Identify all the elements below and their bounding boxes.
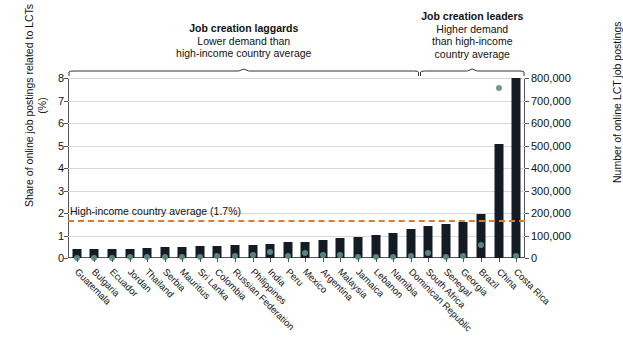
annotation-laggards-line-1: Lower demand than (144, 35, 344, 48)
y-axis-left-tick-label: 5 (34, 141, 64, 152)
bar-group[interactable]: Jamaica (349, 78, 367, 258)
x-axis-tickmark (463, 258, 464, 262)
bar-group[interactable]: Brazil (472, 78, 490, 258)
bar-group[interactable]: Senegal (437, 78, 455, 258)
y-axis-right-tick-label: 600,000 (531, 118, 601, 129)
y-axis-right-tick-label: 200,000 (531, 208, 601, 219)
y-axis-left-tick-label: 0 (34, 253, 64, 264)
y-axis-left-tick-label: 6 (34, 118, 64, 129)
x-axis-tickmark (182, 258, 183, 262)
x-axis-tick-label: Costa Rica (512, 267, 552, 307)
bar-group[interactable]: Serbia (156, 78, 174, 258)
bar-group[interactable]: Namibia (384, 78, 402, 258)
plot-area: 012345678 0100,000200,000300,000400,0005… (68, 78, 525, 258)
y-axis-right-tickmark (525, 236, 529, 237)
x-axis-tickmark (358, 258, 359, 262)
y-axis-left-tick-label: 4 (34, 163, 64, 174)
annotation-laggards-line-2: high-income country average (144, 47, 344, 60)
data-point-marker[interactable] (496, 85, 502, 91)
bar-group[interactable]: Argentina (314, 78, 332, 258)
bar-group[interactable]: Sri Lanka (191, 78, 209, 258)
bar-group[interactable]: Bulgaria (86, 78, 104, 258)
bar-group[interactable]: Costa Rica (507, 78, 525, 258)
bar-group[interactable]: Guatemala (68, 78, 86, 258)
x-axis-tickmark (499, 258, 500, 262)
bar-group[interactable]: Philippines (244, 78, 262, 258)
y-axis-left-tick-label: 2 (34, 208, 64, 219)
annotation-leaders-line-2: than high-income (412, 35, 532, 48)
y-axis-left-tick-label: 7 (34, 96, 64, 107)
x-axis-tickmark (516, 258, 517, 262)
bars-layer: GuatemalaBulgariaEcuadorJordanThailandSe… (68, 78, 525, 258)
x-axis-tickmark (200, 258, 201, 262)
bar-group[interactable]: Colombia (209, 78, 227, 258)
reference-line-label: High-income country average (1.7%) (70, 205, 241, 217)
x-axis-tickmark (411, 258, 412, 262)
y-axis-right-title: Number of online LCT job postings (611, 0, 623, 207)
y-axis-left-tick-label: 3 (34, 186, 64, 197)
bracket-leaders (421, 69, 524, 76)
bar-group[interactable]: Ecuador (103, 78, 121, 258)
x-axis-tickmark (376, 258, 377, 262)
bar-group[interactable]: China (490, 78, 508, 258)
bar-group[interactable]: Jordan (121, 78, 139, 258)
bar-group[interactable]: Russian Federation (226, 78, 244, 258)
data-point-marker[interactable] (478, 242, 484, 248)
bar-group[interactable]: Thailand (138, 78, 156, 258)
bar[interactable] (441, 224, 450, 258)
x-axis-tickmark (393, 258, 394, 262)
x-axis-tickmark (481, 258, 482, 262)
y-axis-right-tick-label: 100,000 (531, 231, 601, 242)
x-axis-tickmark (253, 258, 254, 262)
bar[interactable] (494, 144, 503, 258)
y-axis-right-tickmark (525, 258, 529, 259)
y-axis-right-tick-label: 800,000 (531, 73, 601, 84)
y-axis-right-tickmark (525, 191, 529, 192)
y-axis-right-tickmark (525, 123, 529, 124)
annotation-leaders-title: Job creation leaders (412, 10, 532, 23)
bar-group[interactable]: Mexico (297, 78, 315, 258)
x-axis-tickmark (288, 258, 289, 262)
x-axis-tickmark (446, 258, 447, 262)
x-axis-tick-label: Peru (283, 267, 304, 288)
annotation-laggards-title: Job creation laggards (144, 22, 344, 35)
x-axis-tickmark (77, 258, 78, 262)
y-axis-left-tick-label: 8 (34, 73, 64, 84)
x-axis-tickmark (340, 258, 341, 262)
bar-group[interactable]: South Africa (420, 78, 438, 258)
y-axis-right-tick-label: 500,000 (531, 141, 601, 152)
x-axis-tickmark (165, 258, 166, 262)
x-axis-tickmark (270, 258, 271, 262)
y-axis-right-tick-label: 400,000 (531, 163, 601, 174)
reference-line (68, 220, 525, 222)
bar[interactable] (512, 78, 521, 258)
x-axis-tickmark (235, 258, 236, 262)
y-axis-right-tickmark (525, 213, 529, 214)
y-axis-left-tickmark (64, 258, 68, 259)
x-axis-tickmark (130, 258, 131, 262)
x-axis-tickmark (323, 258, 324, 262)
x-axis-tickmark (217, 258, 218, 262)
y-axis-left-tick-label: 1 (34, 231, 64, 242)
x-axis-tickmark (305, 258, 306, 262)
bar-group[interactable]: Georgia (455, 78, 473, 258)
bracket-laggards (69, 69, 419, 76)
bar-group[interactable]: India (261, 78, 279, 258)
bar-group[interactable]: Lebanon (367, 78, 385, 258)
bar-group[interactable]: Malaysia (332, 78, 350, 258)
x-axis-tickmark (94, 258, 95, 262)
y-axis-right-tickmark (525, 146, 529, 147)
bar-group[interactable]: Mauritius (173, 78, 191, 258)
annotation-laggards: Job creation laggards Lower demand than … (144, 22, 344, 60)
y-axis-right-tick-label: 300,000 (531, 186, 601, 197)
y-axis-right-tickmark (525, 101, 529, 102)
x-axis-tickmark (147, 258, 148, 262)
bar-group[interactable]: Peru (279, 78, 297, 258)
y-axis-right-tick-label: 700,000 (531, 96, 601, 107)
y-axis-right-tick-label: 0 (531, 253, 601, 264)
annotation-leaders-line-1: Higher demand (412, 23, 532, 36)
bar-group[interactable]: Dominican Republic (402, 78, 420, 258)
x-axis-tickmark (112, 258, 113, 262)
y-axis-right-tickmark (525, 168, 529, 169)
